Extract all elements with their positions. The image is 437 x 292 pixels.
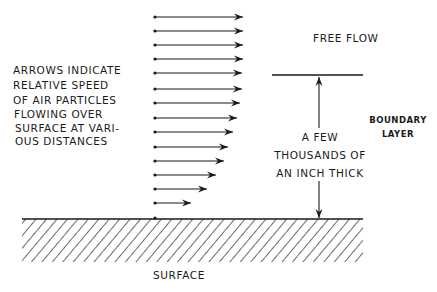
- velocity-arrow: [153, 43, 243, 46]
- velocity-arrow: [153, 187, 207, 190]
- velocity-arrow: [153, 116, 237, 119]
- velocity-arrow: [153, 145, 228, 148]
- explanation-line: OF AIR PARTICLES: [13, 94, 117, 106]
- surface-label: SURFACE: [153, 269, 205, 281]
- velocity-arrow: [153, 201, 191, 204]
- boundary-layer-line: LAYER: [382, 129, 414, 139]
- velocity-arrow: [153, 173, 216, 176]
- explanation-text: ARROWS INDICATE RELATIVE SPEED OF AIR PA…: [13, 64, 121, 147]
- explanation-line: SURFACE AT VARI-: [15, 122, 120, 134]
- surface-hatching: [22, 219, 363, 262]
- boundary-layer-diagram: ARROWS INDICATE RELATIVE SPEED OF AIR PA…: [0, 0, 437, 292]
- explanation-line: FLOWING OVER: [14, 108, 103, 120]
- velocity-arrow: [153, 71, 242, 74]
- velocity-arrow: [153, 130, 233, 133]
- velocity-arrow: [153, 15, 243, 18]
- explanation-line: RELATIVE SPEED: [13, 79, 109, 91]
- velocity-arrow: [153, 29, 243, 32]
- velocity-arrow: [153, 159, 224, 162]
- thickness-line: THOUSANDS OF: [273, 149, 366, 161]
- boundary-layer-line: BOUNDARY: [369, 115, 427, 125]
- velocity-arrow: [153, 101, 240, 104]
- thickness-line: AN INCH THICK: [276, 167, 364, 179]
- velocity-arrows: [153, 15, 243, 204]
- thickness-label: A FEW THOUSANDS OF AN INCH THICK: [273, 131, 366, 179]
- velocity-arrow: [153, 57, 243, 60]
- explanation-line: OUS DISTANCES: [15, 135, 108, 147]
- thickness-line: A FEW: [302, 131, 339, 143]
- velocity-arrow: [153, 87, 242, 90]
- explanation-line: ARROWS INDICATE: [13, 64, 121, 76]
- boundary-layer-label: BOUNDARY LAYER: [369, 115, 427, 139]
- free-flow-label: FREE FLOW: [313, 32, 379, 44]
